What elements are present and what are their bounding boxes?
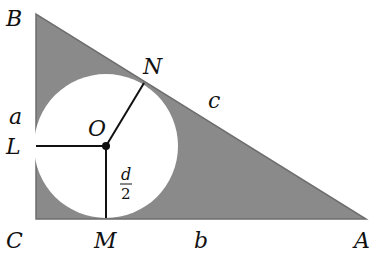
center-point-O: [102, 142, 110, 150]
label-side-b: b: [194, 228, 208, 253]
label-side-a: a: [9, 104, 22, 129]
label-center-O: O: [88, 116, 106, 141]
label-side-c: c: [208, 88, 220, 113]
triangle-diagram: B C A N L M O a b c d 2: [0, 0, 390, 263]
label-point-N: N: [142, 54, 163, 79]
radius-label-numerator: d: [121, 165, 131, 184]
label-vertex-A: A: [352, 228, 370, 253]
label-point-L: L: [5, 134, 21, 159]
label-vertex-B: B: [5, 6, 22, 31]
label-vertex-C: C: [6, 228, 23, 253]
radius-label-denominator: 2: [121, 185, 131, 203]
label-point-M: M: [93, 228, 117, 253]
